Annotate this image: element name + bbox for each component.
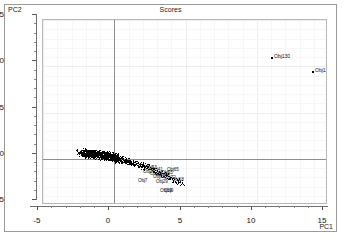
x-tick-mark [51, 206, 52, 208]
data-point [109, 151, 110, 152]
gridline-horizontal [43, 187, 326, 188]
data-point [93, 156, 94, 157]
data-point [138, 166, 139, 167]
gridline-horizontal [43, 66, 326, 67]
y-tick-mark [34, 116, 36, 117]
y-tick-mark [34, 190, 36, 191]
data-point [106, 160, 107, 161]
data-point [180, 182, 181, 183]
data-point [115, 159, 116, 160]
data-point [103, 152, 104, 153]
y-tick-mark [32, 153, 36, 154]
data-point [143, 164, 144, 165]
data-point [129, 160, 130, 161]
y-tick-mark [34, 162, 36, 163]
gridline-horizontal [43, 76, 326, 77]
x-axis-ticks: -5051015 [0, 206, 343, 230]
data-point [129, 163, 130, 164]
y-tick-mark [34, 134, 36, 135]
gridline-horizontal [43, 103, 326, 104]
y-tick-mark [34, 70, 36, 71]
cluster-point-label: Obj18 [172, 177, 184, 182]
x-tick-label: 10 [247, 216, 256, 225]
x-tick-mark [222, 206, 223, 208]
x-tick-mark [123, 206, 124, 208]
data-point [271, 57, 273, 59]
data-point [99, 158, 100, 159]
data-point [95, 152, 96, 153]
y-tick-mark [34, 181, 36, 182]
data-point [95, 157, 96, 158]
data-point [108, 153, 109, 154]
x-tick-mark [66, 206, 67, 208]
data-point [103, 155, 104, 156]
data-point [134, 166, 135, 167]
x-tick-mark [208, 206, 209, 208]
data-point [118, 154, 119, 155]
data-point [104, 160, 105, 161]
data-point [183, 184, 184, 185]
data-point [85, 158, 86, 159]
zero-line-vertical [114, 20, 115, 203]
data-point [180, 185, 181, 186]
data-point [122, 163, 123, 164]
data-point [179, 182, 180, 183]
data-point [86, 157, 87, 158]
y-tick-label: 10 [0, 56, 4, 65]
data-point [96, 158, 97, 159]
gridline-horizontal [43, 168, 326, 169]
data-point [173, 182, 174, 183]
data-point [127, 164, 128, 165]
data-point [312, 71, 314, 73]
gridline-horizontal [43, 177, 326, 178]
x-tick-label: 5 [178, 216, 182, 225]
data-point [124, 162, 125, 163]
data-point [181, 184, 182, 185]
y-tick-mark [34, 23, 36, 24]
data-point [129, 158, 130, 159]
data-point [86, 150, 87, 151]
data-point [102, 159, 103, 160]
data-point [116, 162, 117, 163]
x-tick-mark [165, 206, 166, 208]
y-tick-mark [34, 33, 36, 34]
x-tick-mark [251, 206, 252, 210]
cluster-point-label: Obj9 [164, 188, 173, 193]
y-tick-mark [34, 144, 36, 145]
data-point [106, 152, 107, 153]
data-point [115, 163, 116, 164]
data-point [92, 151, 93, 152]
data-point [113, 160, 114, 161]
data-point [145, 163, 146, 164]
x-tick-mark [137, 206, 138, 208]
data-point [178, 182, 179, 183]
x-tick-mark [237, 206, 238, 208]
data-point [84, 151, 85, 152]
data-point [143, 166, 144, 167]
zero-line-horizontal [43, 159, 326, 160]
data-point [118, 158, 119, 159]
gridline-horizontal [43, 131, 326, 132]
data-point [115, 156, 116, 157]
data-point [112, 155, 113, 156]
y-tick-mark [32, 199, 36, 200]
cluster-point-label: Obj29 [156, 179, 168, 184]
data-point [177, 184, 178, 185]
chart-frame: PC2 Scores Obj130Obj129Obj53Obj41Obj65Ob… [4, 4, 337, 232]
x-tick-mark [94, 206, 95, 208]
data-point [141, 169, 142, 170]
data-point [77, 154, 78, 155]
x-tick-mark [108, 206, 109, 210]
data-point [88, 158, 89, 159]
data-point [109, 160, 110, 161]
y-tick-mark [34, 125, 36, 126]
data-point [79, 156, 80, 157]
point-label-obj130: Obj130 [274, 53, 290, 59]
data-point [104, 159, 105, 160]
y-tick-mark [34, 88, 36, 89]
x-tick-mark [279, 206, 280, 208]
x-tick-label: 0 [106, 216, 110, 225]
data-point [106, 156, 107, 157]
gridline-horizontal [43, 140, 326, 141]
data-point [121, 158, 122, 159]
